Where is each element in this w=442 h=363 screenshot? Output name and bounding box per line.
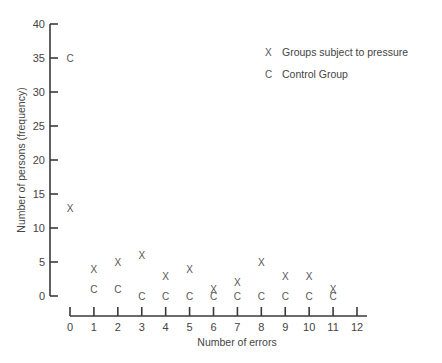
control-point: C (90, 284, 97, 295)
pressure-point: X (186, 264, 193, 275)
control-point: C (114, 284, 121, 295)
x-tick-label: 3 (139, 321, 145, 333)
y-tick-label: 10 (33, 222, 45, 234)
y-tick-label: 5 (39, 256, 45, 268)
y-tick-label: 35 (33, 52, 45, 64)
control-point: C (306, 291, 313, 302)
x-tick-label: 5 (187, 321, 193, 333)
data-points: XXXXXXXXXXXXCCCCCCCCCCCC (66, 53, 336, 302)
y-tick-label: 15 (33, 188, 45, 200)
x-tick-label: 9 (282, 321, 288, 333)
legend-marker-control: C (265, 69, 272, 80)
legend-label-control: Control Group (282, 68, 348, 80)
control-point: C (329, 291, 336, 302)
control-point: C (234, 291, 241, 302)
x-tick-label: 1 (91, 321, 97, 333)
legend-label-pressure: Groups subject to pressure (282, 46, 408, 58)
pressure-point: X (91, 264, 98, 275)
x-tick-label: 10 (303, 321, 315, 333)
y-axis-title: Number of persons (frequency) (15, 87, 27, 232)
control-point: C (162, 291, 169, 302)
control-point: C (138, 291, 145, 302)
legend-marker-pressure: X (265, 47, 272, 58)
x-tick-label: 8 (258, 321, 264, 333)
x-tick-label: 11 (327, 321, 338, 333)
control-point: C (66, 53, 73, 64)
control-point: C (258, 291, 265, 302)
x-tick-label: 4 (163, 321, 169, 333)
control-point: C (186, 291, 193, 302)
x-tick-label: 7 (234, 321, 240, 333)
pressure-point: X (67, 203, 74, 214)
y-tick-label: 20 (33, 154, 45, 166)
pressure-point: X (282, 271, 289, 282)
pressure-point: X (138, 250, 145, 261)
y-axis: 0510152025303540 (33, 18, 58, 302)
y-tick-label: 30 (33, 86, 45, 98)
x-axis-title: Number of errors (197, 336, 276, 348)
x-tick-label: 6 (210, 321, 216, 333)
x-axis: 0123456789101112 (67, 307, 367, 333)
x-tick-label: 0 (67, 321, 73, 333)
pressure-point: X (258, 257, 265, 268)
control-point: C (282, 291, 289, 302)
y-tick-label: 40 (33, 18, 45, 30)
scatter-chart: 0510152025303540 0123456789101112 XXXXXX… (0, 0, 442, 363)
y-tick-label: 25 (33, 120, 45, 132)
x-tick-label: 12 (351, 321, 363, 333)
x-tick-label: 2 (115, 321, 121, 333)
y-tick-label: 0 (39, 290, 45, 302)
control-point: C (210, 291, 217, 302)
pressure-point: X (306, 271, 313, 282)
pressure-point: X (114, 257, 121, 268)
pressure-point: X (234, 277, 241, 288)
pressure-point: X (162, 271, 169, 282)
legend: X Groups subject to pressure C Control G… (265, 46, 408, 80)
